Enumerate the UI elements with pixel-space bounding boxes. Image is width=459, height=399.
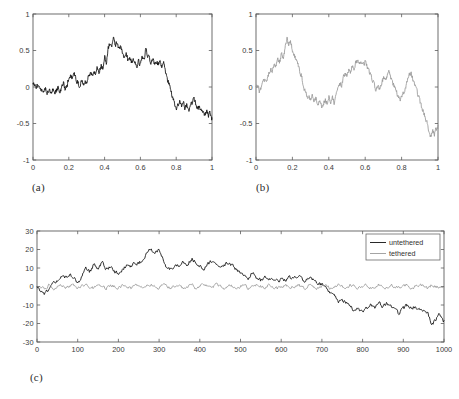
panel-a-caption: (a) xyxy=(32,181,45,193)
svg-text:0.5: 0.5 xyxy=(242,46,252,55)
svg-text:0: 0 xyxy=(25,83,29,92)
svg-text:800: 800 xyxy=(356,345,368,354)
svg-text:0.2: 0.2 xyxy=(287,163,297,172)
svg-text:0: 0 xyxy=(31,163,35,172)
svg-text:-1: -1 xyxy=(23,156,30,165)
figure-container: 00.20.40.60.81-1-0.500.51 (a) 00.20.40.6… xyxy=(0,0,459,399)
svg-text:100: 100 xyxy=(72,345,84,354)
svg-text:1: 1 xyxy=(436,163,440,172)
svg-text:0: 0 xyxy=(254,163,258,172)
svg-text:200: 200 xyxy=(112,345,124,354)
svg-text:0.5: 0.5 xyxy=(19,46,29,55)
panel-c-caption: (c) xyxy=(30,371,43,383)
svg-text:0.2: 0.2 xyxy=(64,163,74,172)
svg-text:0: 0 xyxy=(29,282,33,291)
svg-text:-30: -30 xyxy=(23,338,34,347)
svg-text:0.8: 0.8 xyxy=(171,163,181,172)
svg-text:1: 1 xyxy=(210,163,214,172)
panel-b-plot: 00.20.40.60.81-1-0.500.51 xyxy=(229,6,447,176)
svg-text:0.4: 0.4 xyxy=(99,163,109,172)
svg-text:10: 10 xyxy=(25,264,33,273)
svg-text:-20: -20 xyxy=(23,319,34,328)
chart-panel-a: 00.20.40.60.81-1-0.500.51 xyxy=(6,6,221,176)
svg-text:tethered: tethered xyxy=(389,249,415,258)
svg-text:600: 600 xyxy=(275,345,287,354)
panel-b-caption: (b) xyxy=(256,181,269,193)
svg-text:400: 400 xyxy=(194,345,206,354)
panel-a-plot: 00.20.40.60.81-1-0.500.51 xyxy=(6,6,221,176)
chart-panel-c: 01002003004005006007008009001000-30-20-1… xyxy=(6,206,453,366)
svg-text:0.6: 0.6 xyxy=(135,163,145,172)
svg-text:-10: -10 xyxy=(23,301,34,310)
svg-text:-0.5: -0.5 xyxy=(17,119,30,128)
svg-text:0: 0 xyxy=(35,345,39,354)
svg-text:1000: 1000 xyxy=(436,345,452,354)
svg-text:untethered: untethered xyxy=(389,238,423,247)
svg-text:-0.5: -0.5 xyxy=(240,119,253,128)
svg-text:300: 300 xyxy=(153,345,165,354)
svg-text:0.8: 0.8 xyxy=(396,163,406,172)
svg-text:900: 900 xyxy=(397,345,409,354)
svg-text:30: 30 xyxy=(25,227,33,236)
svg-text:1: 1 xyxy=(248,10,252,19)
svg-text:0.6: 0.6 xyxy=(360,163,370,172)
chart-panel-b: 00.20.40.60.81-1-0.500.51 xyxy=(229,6,447,176)
panel-c-plot: 01002003004005006007008009001000-30-20-1… xyxy=(6,206,453,366)
svg-text:0: 0 xyxy=(248,83,252,92)
svg-text:20: 20 xyxy=(25,245,33,254)
svg-text:500: 500 xyxy=(234,345,246,354)
svg-text:1: 1 xyxy=(25,10,29,19)
svg-text:-1: -1 xyxy=(246,156,253,165)
svg-text:0.4: 0.4 xyxy=(324,163,334,172)
svg-text:700: 700 xyxy=(316,345,328,354)
